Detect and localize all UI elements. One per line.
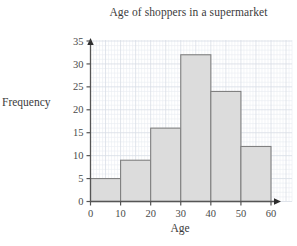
histogram-bar	[91, 179, 121, 202]
y-tick-label: 15	[73, 127, 84, 138]
x-tick-label: 50	[236, 208, 247, 219]
histogram-bar	[211, 91, 241, 201]
y-tick-label: 30	[73, 59, 84, 70]
plot-area: 051015202530350102030405060	[0, 0, 297, 246]
y-tick-label: 20	[73, 104, 84, 115]
y-tick-label: 0	[78, 196, 83, 207]
x-tick-label: 60	[266, 208, 277, 219]
y-tick-label: 5	[78, 173, 83, 184]
histogram-bar	[181, 55, 211, 202]
x-tick-label: 10	[115, 208, 126, 219]
y-tick-label: 25	[73, 81, 84, 92]
histogram-bar	[121, 160, 151, 201]
y-tick-label: 10	[73, 150, 84, 161]
y-tick-label: 35	[73, 36, 84, 47]
x-tick-label: 30	[176, 208, 187, 219]
x-tick-label: 0	[88, 208, 93, 219]
x-tick-label: 40	[206, 208, 217, 219]
histogram-figure: Age of shoppers in a supermarket Frequen…	[0, 0, 297, 246]
histogram-bar	[241, 146, 271, 201]
histogram-bar	[151, 128, 181, 201]
x-tick-label: 20	[145, 208, 156, 219]
